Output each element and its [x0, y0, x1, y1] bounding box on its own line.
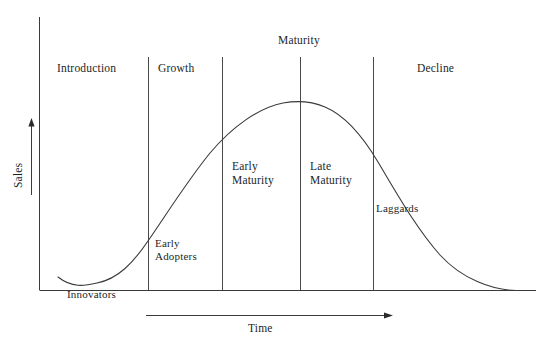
stage-label-maturity: Maturity	[278, 34, 320, 48]
sales-axis-arrow-head	[28, 118, 34, 127]
time-axis-arrow-head	[384, 312, 393, 318]
adopter-label-early-adopters: Early Adopters	[155, 237, 197, 263]
adopter-label-laggards: Laggards	[376, 202, 419, 215]
stage-label-early-maturity: Early Maturity	[232, 160, 274, 187]
product-life-cycle-diagram: Introduction Growth Maturity Early Matur…	[0, 0, 536, 350]
stage-label-growth: Growth	[158, 62, 194, 76]
x-axis-label-time: Time	[248, 322, 273, 336]
y-axis-label-sales: Sales	[12, 163, 26, 188]
stage-label-decline: Decline	[417, 62, 454, 76]
stage-label-late-maturity: Late Maturity	[310, 160, 352, 187]
adopter-label-innovators: Innovators	[67, 288, 116, 301]
product-life-cycle-curve	[58, 102, 516, 291]
stage-label-introduction: Introduction	[57, 62, 116, 76]
